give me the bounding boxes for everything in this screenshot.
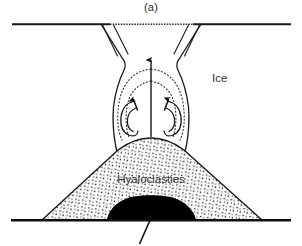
vent-wall-left — [102, 25, 126, 152]
vent-wall-right — [177, 25, 201, 152]
figure-root: (a) — [0, 0, 302, 246]
label-hyaloclastites: Hyaloclasties — [117, 173, 185, 185]
crevasse-left-inner — [114, 25, 129, 54]
feeder-dike-arrow — [140, 218, 152, 244]
convection-loop-right-inner — [166, 108, 175, 132]
crevasse-group — [103, 25, 200, 56]
convection-loop-left-inner — [127, 108, 136, 132]
cross-section-diagram: Ice Hyaloclasties — [0, 0, 302, 246]
feeder-dike-group — [140, 218, 152, 244]
crevasse-right-inner — [174, 25, 189, 54]
label-ice: Ice — [212, 72, 227, 84]
